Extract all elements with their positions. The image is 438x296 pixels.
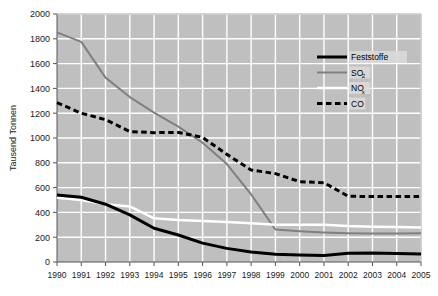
legend-label-feststoffe: Feststoffe: [351, 52, 388, 62]
y-tick-label: 1400: [30, 84, 50, 94]
y-tick-label: 1800: [30, 34, 50, 44]
x-tick-label: 2005: [412, 270, 431, 280]
legend-label-co: CO: [351, 99, 364, 109]
emissions-line-chart: 0200400600800100012001400160018002000 19…: [0, 0, 438, 296]
y-tick-label: 800: [35, 158, 50, 168]
x-tick-label: 1996: [193, 270, 212, 280]
x-tick-label: 1997: [217, 270, 236, 280]
x-tick-label: 1990: [48, 270, 67, 280]
y-tick-label: 400: [35, 208, 50, 218]
legend-label-subscript-nox: x: [362, 89, 365, 95]
x-tick-label: 2001: [314, 270, 333, 280]
x-axis-ticks: 1990199119921993199419951996199719981999…: [48, 262, 431, 280]
y-tick-label: 600: [35, 183, 50, 193]
y-axis-ticks: 0200400600800100012001400160018002000: [30, 9, 57, 267]
y-tick-label: 1600: [30, 59, 50, 69]
y-tick-label: 2000: [30, 9, 50, 19]
x-tick-label: 1991: [72, 270, 91, 280]
x-tick-label: 1993: [120, 270, 139, 280]
chart-svg: 0200400600800100012001400160018002000 19…: [0, 0, 438, 296]
y-axis-title: Tausend Tonnen: [8, 105, 18, 171]
x-tick-label: 1998: [242, 270, 261, 280]
y-tick-label: 200: [35, 233, 50, 243]
x-tick-label: 1999: [266, 270, 285, 280]
x-tick-label: 1992: [96, 270, 115, 280]
x-tick-label: 1995: [169, 270, 188, 280]
x-tick-label: 1994: [145, 270, 164, 280]
x-tick-label: 2002: [339, 270, 358, 280]
y-tick-label: 1000: [30, 133, 50, 143]
y-tick-label: 0: [45, 257, 50, 267]
x-tick-label: 2003: [363, 270, 382, 280]
y-tick-label: 1200: [30, 109, 50, 119]
x-tick-label: 2000: [290, 270, 309, 280]
x-tick-label: 2004: [387, 270, 406, 280]
